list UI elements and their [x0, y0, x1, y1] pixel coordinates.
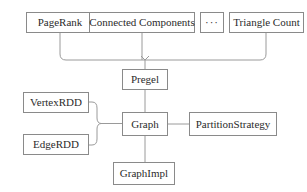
node-vertexrdd-label: VertexRDD — [30, 97, 82, 108]
node-triangle-count[interactable]: Triangle Count — [229, 12, 304, 33]
brace-edgerdd-arm — [89, 124, 101, 146]
node-connected-components-label: Connected Components — [89, 17, 194, 28]
edge-pagerank-to-bus — [60, 33, 145, 60]
node-edgerdd[interactable]: EdgeRDD — [23, 134, 89, 155]
node-pagerank[interactable]: PageRank — [26, 12, 94, 33]
node-vertexrdd[interactable]: VertexRDD — [23, 92, 89, 113]
node-pregel[interactable]: Pregel — [122, 69, 168, 90]
node-graphimpl-label: GraphImpl — [120, 168, 168, 179]
node-graph[interactable]: Graph — [122, 112, 168, 136]
node-ellipsis: ··· — [200, 12, 224, 33]
arrow-head-pregel — [141, 56, 149, 60]
node-partitionstrategy-label: PartitionStrategy — [196, 119, 271, 130]
node-triangle-count-label: Triangle Count — [233, 17, 300, 28]
edge-triangle-count-to-bus — [145, 33, 266, 60]
node-edgerdd-label: EdgeRDD — [33, 139, 79, 150]
node-graph-label: Graph — [131, 119, 159, 130]
node-partitionstrategy[interactable]: PartitionStrategy — [189, 112, 277, 136]
brace-vertexrdd-arm — [89, 102, 101, 124]
node-pregel-label: Pregel — [131, 74, 159, 85]
node-graphimpl[interactable]: GraphImpl — [113, 162, 175, 185]
node-connected-components[interactable]: Connected Components — [89, 12, 195, 33]
node-pagerank-label: PageRank — [38, 17, 83, 28]
diagram-canvas: PageRank Connected Components ··· Triang… — [0, 0, 307, 192]
node-ellipsis-label: ··· — [205, 17, 219, 28]
